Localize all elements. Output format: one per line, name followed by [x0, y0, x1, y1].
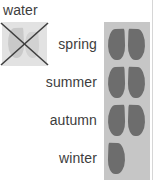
legend-row-winter[interactable]: winter [0, 136, 152, 180]
water-legend-panel: water spring summer autumn winter [0, 0, 158, 180]
water-drop-icon [107, 142, 125, 174]
water-drop-icon [107, 28, 125, 60]
water-drop-icon [127, 28, 145, 60]
panel-right-divider [152, 0, 153, 180]
water-drop-icon [107, 104, 125, 136]
legend-label-winter: winter [59, 136, 97, 180]
water-drop-icon [107, 66, 125, 98]
water-amount-swatch-winter [104, 136, 150, 180]
water-drop-icon [127, 104, 145, 136]
water-drop-icon [127, 66, 145, 98]
page-title: water [3, 2, 38, 18]
